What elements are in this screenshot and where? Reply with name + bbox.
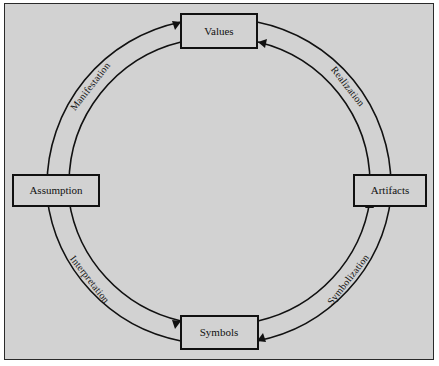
arc-interpretation-path (47, 197, 181, 341)
arc-inner-values-in (258, 39, 370, 184)
arc-realization: Realization (257, 22, 395, 186)
arc-symbolization-path (257, 197, 391, 341)
arc-inner-artifacts-in-path (258, 200, 370, 321)
arc-inner-symbols-in-arrowhead (172, 320, 181, 329)
arc-manifestation-path (47, 22, 181, 186)
arc-inner-assumption-in (64, 42, 181, 184)
node-assumption-label: Assumption (29, 184, 83, 196)
figure-frame: Manifestation Realization Symbolization … (4, 3, 434, 360)
arc-realization-path (257, 22, 391, 186)
node-symbols-label: Symbols (200, 326, 239, 338)
arc-symbolization: Symbolization (257, 197, 391, 342)
node-symbols[interactable]: Symbols (181, 316, 258, 349)
node-assumption[interactable]: Assumption (13, 175, 99, 206)
cycle-diagram: Manifestation Realization Symbolization … (5, 4, 433, 359)
node-values-label: Values (204, 25, 233, 37)
arc-inner-assumption-in-path (69, 42, 181, 184)
arc-inner-values-in-arrowhead (258, 39, 267, 48)
arc-manifestation: Manifestation (47, 21, 181, 186)
node-values[interactable]: Values (181, 14, 257, 48)
arc-label-realization: Realization (329, 64, 367, 108)
node-artifacts[interactable]: Artifacts (354, 175, 426, 206)
arc-manifestation-arrowhead (172, 21, 181, 30)
arc-inner-symbols-in-path (69, 200, 181, 321)
arc-label-interpretation: Interpretation (68, 253, 112, 305)
arc-interpretation: Interpretation (43, 197, 181, 341)
node-artifacts-label: Artifacts (371, 184, 409, 196)
arc-inner-values-in-path (258, 42, 370, 184)
